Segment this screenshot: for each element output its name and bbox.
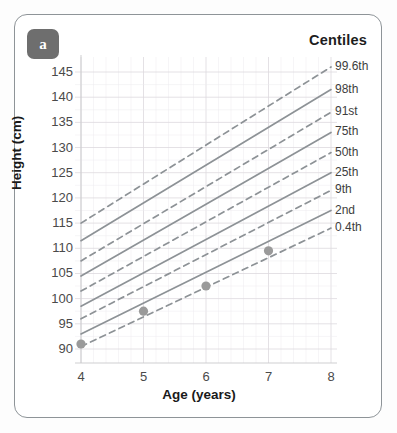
y-tick-130: 130 (39, 140, 73, 155)
y-tick-125: 125 (39, 165, 73, 180)
centile-label-98th: 98th (335, 82, 358, 96)
data-point-0 (76, 339, 85, 348)
y-tick-120: 120 (39, 190, 73, 205)
x-tick-8: 8 (321, 369, 341, 384)
data-point-2 (201, 281, 210, 290)
y-tick-145: 145 (39, 64, 73, 79)
centile-label-25th: 25th (335, 165, 358, 179)
x-tick-5: 5 (134, 369, 154, 384)
centile-label-9th: 9th (335, 182, 352, 196)
y-tick-105: 105 (39, 265, 73, 280)
x-tick-7: 7 (259, 369, 279, 384)
y-tick-115: 115 (39, 215, 73, 230)
y-axis-label: Height (cm) (9, 116, 24, 190)
y-tick-140: 140 (39, 89, 73, 104)
y-tick-135: 135 (39, 114, 73, 129)
centile-label-2nd: 2nd (335, 203, 355, 217)
x-tick-4: 4 (71, 369, 91, 384)
x-tick-6: 6 (196, 369, 216, 384)
x-axis-label: Age (years) (15, 387, 383, 402)
centile-label-50th: 50th (335, 145, 358, 159)
y-tick-110: 110 (39, 240, 73, 255)
y-tick-95: 95 (39, 316, 73, 331)
centile-label-75th: 75th (335, 124, 358, 138)
data-point-3 (264, 246, 273, 255)
centile-label-91st: 91st (335, 104, 358, 118)
screenshot-root: a Centiles Height (cm) Age (years) 99.6t… (0, 0, 397, 433)
y-tick-90: 90 (39, 341, 73, 356)
centile-label-0-4th: 0.4th (335, 220, 362, 234)
data-point-1 (139, 307, 148, 316)
centile-label-99-6th: 99.6th (335, 59, 368, 73)
y-tick-100: 100 (39, 291, 73, 306)
chart-card: a Centiles Height (cm) Age (years) 99.6t… (14, 14, 382, 418)
plot-area: Height (cm) Age (years) 99.6th98th91st75… (15, 15, 383, 419)
